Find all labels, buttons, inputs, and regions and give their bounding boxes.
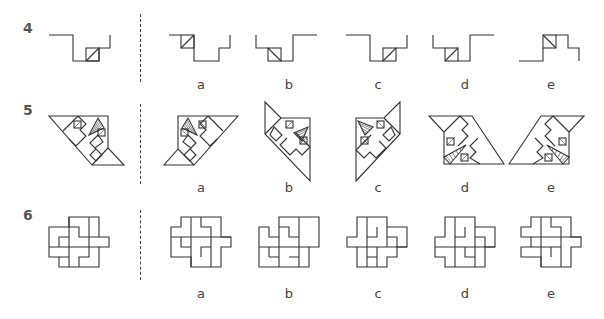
option-label-5b: b xyxy=(279,180,299,195)
row-5-option-a[interactable] xyxy=(163,115,243,171)
row-4-option-d[interactable] xyxy=(432,30,502,65)
option-label-4e: e xyxy=(541,77,561,92)
option-label-6c: c xyxy=(368,286,388,301)
option-label-4b: b xyxy=(279,77,299,92)
option-label-6e: e xyxy=(541,286,561,301)
option-label-4c: c xyxy=(368,77,388,92)
row-6-option-e[interactable] xyxy=(520,216,584,272)
row-6-option-a[interactable] xyxy=(170,216,234,272)
option-label-4a: a xyxy=(191,77,211,92)
row-6-option-c[interactable] xyxy=(346,216,410,272)
row-4-option-a[interactable] xyxy=(168,30,238,65)
option-label-5e: e xyxy=(541,180,561,195)
row-5-question-figure xyxy=(48,115,128,171)
option-label-5a: a xyxy=(191,180,211,195)
row-5-option-d[interactable] xyxy=(428,115,508,171)
row-5-option-c[interactable] xyxy=(355,101,415,181)
row-6-option-b[interactable] xyxy=(258,216,322,272)
row-4-option-e[interactable] xyxy=(518,30,588,65)
divider-row-4 xyxy=(140,14,141,82)
row-4-option-b[interactable] xyxy=(255,30,325,65)
row-5-option-b[interactable] xyxy=(264,101,324,181)
option-label-6d: d xyxy=(455,286,475,301)
row-6-question-figure xyxy=(48,216,112,272)
option-label-5c: c xyxy=(368,180,388,195)
row-6-option-d[interactable] xyxy=(434,216,498,272)
divider-row-5 xyxy=(140,104,141,184)
row-number-4: 4 xyxy=(23,20,33,36)
option-label-6a: a xyxy=(191,286,211,301)
row-4-option-c[interactable] xyxy=(345,30,415,65)
row-number-6: 6 xyxy=(23,207,33,223)
divider-row-6 xyxy=(140,210,141,280)
row-number-5: 5 xyxy=(23,102,33,118)
row-5-option-e[interactable] xyxy=(508,115,588,171)
option-label-5d: d xyxy=(455,180,475,195)
option-label-4d: d xyxy=(455,77,475,92)
row-4-question-figure xyxy=(48,30,118,65)
option-label-6b: b xyxy=(279,286,299,301)
